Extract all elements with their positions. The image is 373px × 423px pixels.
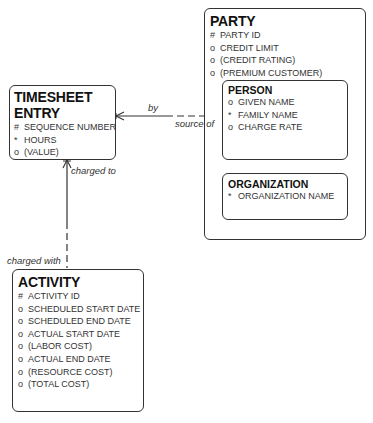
attribute-mark: o <box>210 42 220 55</box>
relationship-label-source-of: source of <box>175 118 214 129</box>
attribute-mark: o <box>18 303 28 316</box>
entity-title: TIMESHEET ENTRY <box>14 89 111 121</box>
attribute-row: oSCHEDULED START DATE <box>18 303 138 316</box>
attribute-label: GIVEN NAME <box>238 97 295 107</box>
attribute-row: *ORGANIZATION NAME <box>228 190 342 203</box>
attribute-label: (LABOR COST) <box>28 341 92 351</box>
entity-timesheet-entry[interactable]: TIMESHEET ENTRY #SEQUENCE NUMBER *HOURS … <box>9 85 116 160</box>
attribute-row: oACTUAL END DATE <box>18 353 138 366</box>
attribute-label: ORGANIZATION NAME <box>238 191 334 201</box>
attribute-mark: * <box>228 190 238 203</box>
attribute-row: o(TOTAL COST) <box>18 378 138 391</box>
attribute-mark: o <box>18 328 28 341</box>
entity-person[interactable]: PERSON oGIVEN NAME *FAMILY NAME oCHARGE … <box>222 80 348 160</box>
attribute-label: HOURS <box>24 135 57 145</box>
attribute-row: #PARTY ID <box>210 29 360 42</box>
attribute-label: CREDIT LIMIT <box>220 43 279 53</box>
attribute-row: o(PREMIUM CUSTOMER) <box>210 67 360 80</box>
attribute-mark: * <box>228 109 238 122</box>
attribute-label: (RESOURCE COST) <box>28 367 113 377</box>
attribute-mark: o <box>18 353 28 366</box>
attribute-row: oSCHEDULED END DATE <box>18 315 138 328</box>
attribute-label: ACTUAL START DATE <box>28 329 120 339</box>
attribute-row: o(VALUE) <box>14 146 111 159</box>
attribute-label: PARTY ID <box>220 30 261 40</box>
attribute-label: CHARGE RATE <box>238 122 302 132</box>
attribute-label: ACTUAL END DATE <box>28 354 111 364</box>
attribute-label: (VALUE) <box>24 147 59 157</box>
attribute-mark: o <box>210 67 220 80</box>
entity-activity[interactable]: ACTIVITY #ACTIVITY ID oSCHEDULED START D… <box>12 269 144 412</box>
attribute-row: oGIVEN NAME <box>228 96 342 109</box>
attribute-mark: o <box>210 54 220 67</box>
entity-organization[interactable]: ORGANIZATION *ORGANIZATION NAME <box>222 173 348 220</box>
attribute-mark: o <box>18 366 28 379</box>
attribute-mark: * <box>14 134 24 147</box>
attribute-row: o(LABOR COST) <box>18 340 138 353</box>
attribute-label: ACTIVITY ID <box>28 291 80 301</box>
attribute-label: SCHEDULED START DATE <box>28 304 140 314</box>
attribute-row: #SEQUENCE NUMBER <box>14 121 111 134</box>
attribute-mark: # <box>14 121 24 134</box>
relationship-label-charged-with: charged with <box>7 255 61 266</box>
attribute-label: (TOTAL COST) <box>28 379 89 389</box>
entity-title: PARTY <box>210 13 360 29</box>
attribute-row: oACTUAL START DATE <box>18 328 138 341</box>
attribute-mark: o <box>18 315 28 328</box>
attribute-label: (CREDIT RATING) <box>220 55 295 65</box>
attribute-row: oCREDIT LIMIT <box>210 42 360 55</box>
relationship-label-by: by <box>148 102 158 113</box>
attribute-mark: o <box>228 121 238 134</box>
attribute-mark: o <box>228 96 238 109</box>
relationship-label-charged-to: charged to <box>71 165 116 176</box>
entity-title: ORGANIZATION <box>228 178 342 190</box>
attribute-label: SCHEDULED END DATE <box>28 316 131 326</box>
attribute-row: *HOURS <box>14 134 111 147</box>
attribute-mark: # <box>18 290 28 303</box>
attribute-row: *FAMILY NAME <box>228 109 342 122</box>
attribute-row: o(RESOURCE COST) <box>18 366 138 379</box>
attribute-mark: o <box>18 378 28 391</box>
attribute-mark: o <box>18 340 28 353</box>
attribute-row: oCHARGE RATE <box>228 121 342 134</box>
attribute-label: FAMILY NAME <box>238 110 298 120</box>
attribute-mark: o <box>14 146 24 159</box>
entity-title: ACTIVITY <box>18 274 138 290</box>
attribute-row: o(CREDIT RATING) <box>210 54 360 67</box>
attribute-label: (PREMIUM CUSTOMER) <box>220 68 322 78</box>
attribute-mark: # <box>210 29 220 42</box>
attribute-row: #ACTIVITY ID <box>18 290 138 303</box>
attribute-label: SEQUENCE NUMBER <box>24 122 116 132</box>
entity-title: PERSON <box>228 84 342 96</box>
